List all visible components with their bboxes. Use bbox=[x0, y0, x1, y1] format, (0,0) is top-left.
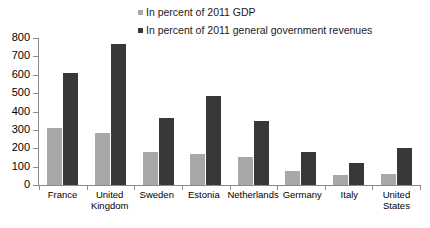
bar-group bbox=[372, 38, 420, 185]
y-axis-tick-label: 0 bbox=[24, 178, 30, 191]
legend-item-government-revenues: In percent of 2011 general government re… bbox=[138, 22, 428, 38]
bar-group bbox=[325, 38, 373, 185]
legend-label-gdp: In percent of 2011 GDP bbox=[146, 6, 256, 18]
bar-group bbox=[277, 38, 325, 185]
y-axis-tick: 800 bbox=[33, 38, 38, 39]
y-axis-tick: 100 bbox=[33, 167, 38, 168]
legend-swatch-government-revenues bbox=[138, 28, 143, 33]
bar bbox=[159, 118, 174, 185]
plot-area: 8007006005004003002001000 bbox=[38, 38, 420, 185]
x-axis-category-label: Germany bbox=[279, 189, 326, 211]
y-axis-tick-label: 100 bbox=[12, 160, 30, 173]
bar-groups bbox=[39, 38, 420, 185]
bar bbox=[254, 121, 269, 185]
bar bbox=[333, 175, 348, 185]
x-axis-category-label: UnitedKingdom bbox=[86, 189, 133, 211]
bar bbox=[381, 174, 396, 185]
x-axis-category-label: UnitedStates bbox=[373, 189, 420, 211]
bar-group bbox=[39, 38, 87, 185]
bar bbox=[111, 44, 126, 185]
x-axis-labels: FranceUnitedKingdomSwedenEstoniaNetherla… bbox=[39, 189, 420, 211]
bar-group bbox=[134, 38, 182, 185]
y-axis-tick-label: 800 bbox=[12, 31, 30, 44]
legend-label-government-revenues: In percent of 2011 general government re… bbox=[146, 24, 372, 36]
bar bbox=[238, 157, 253, 185]
bar bbox=[143, 152, 158, 185]
x-axis-category-label: Estonia bbox=[180, 189, 227, 211]
x-axis-category-label: Italy bbox=[326, 189, 373, 211]
x-axis-category-label: France bbox=[39, 189, 86, 211]
y-axis-tick-label: 300 bbox=[12, 123, 30, 136]
y-axis-tick: 700 bbox=[33, 56, 38, 57]
y-axis-tick: 400 bbox=[33, 112, 38, 113]
y-axis-tick: 600 bbox=[33, 75, 38, 76]
bar bbox=[285, 171, 300, 185]
bar bbox=[349, 163, 364, 185]
bar-group bbox=[87, 38, 135, 185]
y-axis-tick-label: 200 bbox=[12, 141, 30, 154]
bar bbox=[63, 73, 78, 185]
bar bbox=[190, 154, 205, 185]
y-axis-tick: 0 bbox=[33, 185, 38, 186]
bar bbox=[301, 152, 316, 185]
y-axis-tick-label: 500 bbox=[12, 86, 30, 99]
y-axis-tick-label: 400 bbox=[12, 105, 30, 118]
x-axis-tick bbox=[420, 185, 421, 190]
bar-chart: In percent of 2011 GDP In percent of 201… bbox=[0, 0, 430, 228]
bar bbox=[206, 96, 221, 185]
legend-swatch-gdp bbox=[138, 10, 143, 15]
y-axis-tick: 500 bbox=[33, 93, 38, 94]
bar bbox=[47, 128, 62, 185]
x-axis-category-label: Sweden bbox=[133, 189, 180, 211]
bar bbox=[397, 148, 412, 185]
y-axis-tick: 300 bbox=[33, 130, 38, 131]
chart-legend: In percent of 2011 GDP In percent of 201… bbox=[138, 4, 428, 40]
bar bbox=[95, 133, 110, 185]
bar-group bbox=[182, 38, 230, 185]
x-axis-category-label: Netherlands bbox=[227, 189, 278, 211]
y-axis-tick: 200 bbox=[33, 148, 38, 149]
legend-item-gdp: In percent of 2011 GDP bbox=[138, 4, 428, 20]
y-axis-tick-label: 700 bbox=[12, 49, 30, 62]
bar-group bbox=[230, 38, 278, 185]
y-axis-tick-label: 600 bbox=[12, 68, 30, 81]
